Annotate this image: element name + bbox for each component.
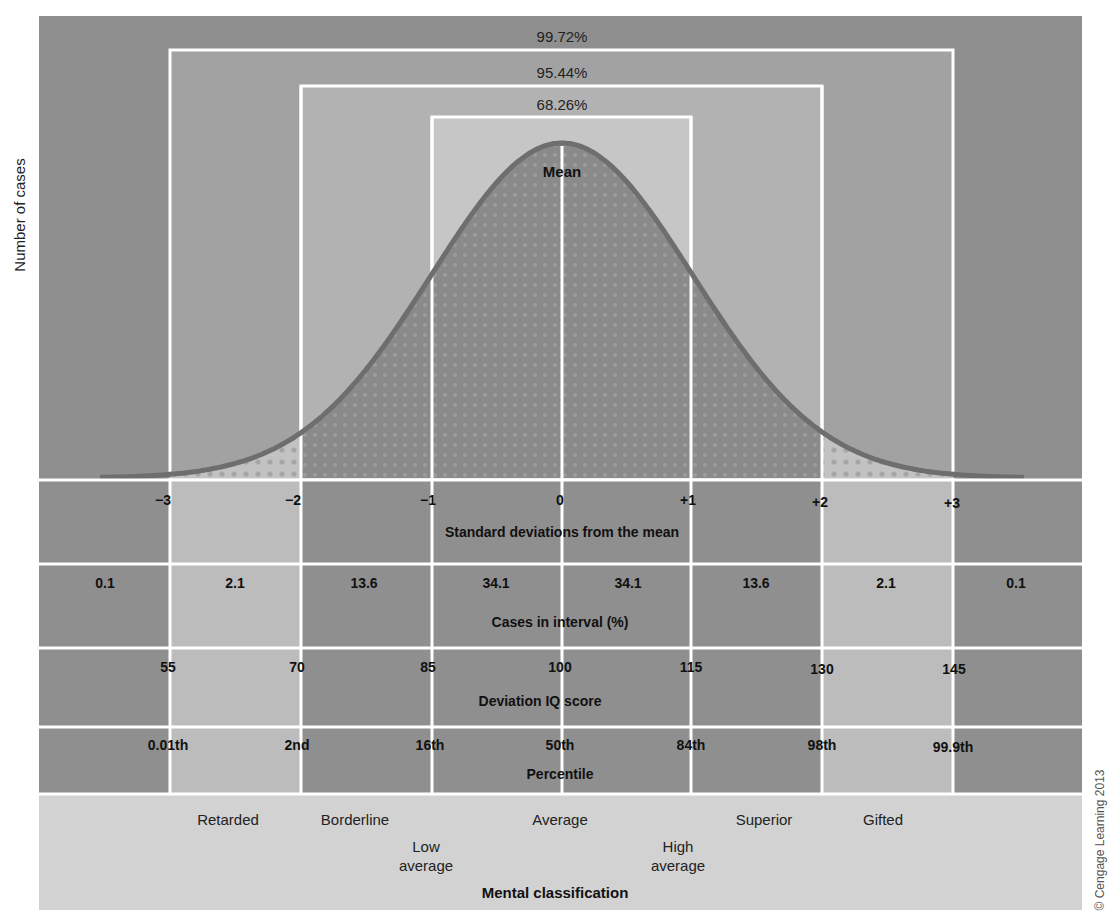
class-label-high: High (663, 838, 694, 855)
cases-value: 13.6 (350, 575, 377, 591)
class-label-low-2: average (399, 857, 453, 874)
sd-tick: −1 (420, 492, 436, 508)
light-column-left (170, 480, 301, 794)
label-99-72: 99.72% (537, 28, 588, 45)
cases-value: 13.6 (742, 575, 769, 591)
iq-tick: 145 (942, 661, 966, 677)
percentile-tick: 2nd (285, 737, 310, 753)
cases-value: 0.1 (95, 575, 115, 591)
sd-tick: +3 (944, 495, 960, 511)
class-label-borderline: Borderline (321, 811, 389, 828)
iq-tick: 55 (160, 659, 176, 675)
iq-tick: 100 (548, 659, 572, 675)
percentile-tick: 98th (808, 737, 837, 753)
class-label-high-2: average (651, 857, 705, 874)
percentile-tick: 84th (677, 737, 706, 753)
class-label-retarded: Retarded (197, 811, 259, 828)
percentile-tick: 16th (416, 737, 445, 753)
sd-tick: −2 (285, 492, 301, 508)
sd-row-title: Standard deviations from the mean (445, 524, 679, 540)
cases-value: 2.1 (225, 575, 245, 591)
iq-row-title: Deviation IQ score (479, 693, 602, 709)
class-label-low: Low (412, 838, 440, 855)
iq-tick: 130 (810, 661, 834, 677)
classification-row-title: Mental classification (482, 884, 629, 901)
percentile-tick: 99.9th (933, 739, 973, 755)
class-label-superior: Superior (736, 811, 793, 828)
cases-value: 34.1 (482, 575, 509, 591)
iq-tick: 115 (680, 659, 703, 675)
percentile-row-title: Percentile (527, 766, 594, 782)
class-label-average: Average (532, 811, 588, 828)
cases-row-title: Cases in interval (%) (492, 614, 629, 630)
sd-tick: −3 (155, 492, 171, 508)
sd-tick: +2 (812, 494, 828, 510)
label-68-26: 68.26% (537, 96, 588, 113)
mean-label: Mean (543, 163, 581, 180)
class-label-gifted: Gifted (863, 811, 903, 828)
sd-tick: +1 (680, 492, 696, 508)
sd-tick: 0 (556, 492, 564, 508)
label-95-44: 95.44% (537, 64, 588, 81)
cases-value: 0.1 (1006, 575, 1026, 591)
cases-value: 34.1 (614, 575, 641, 591)
percentile-tick: 0.01th (148, 737, 188, 753)
normal-distribution-figure: 99.72% 95.44% 68.26% Mean −3 (0, 0, 1115, 920)
percentile-tick: 50th (546, 737, 575, 753)
cases-value: 2.1 (876, 575, 896, 591)
iq-tick: 70 (289, 659, 305, 675)
iq-tick: 85 (420, 659, 436, 675)
